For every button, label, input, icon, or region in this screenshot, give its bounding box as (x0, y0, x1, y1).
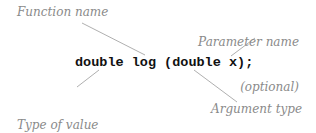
leader-function-name (82, 23, 145, 55)
return-type-label: Type of value returned by function (17, 88, 98, 133)
argument-type-label: Argument type (211, 102, 302, 117)
function-prototype-code: double log (double x); (75, 55, 253, 70)
return-type-line1: Type of value (17, 118, 98, 133)
parameter-name-line1: Parameter name (198, 35, 299, 50)
function-name-label: Function name (17, 5, 108, 20)
leader-return-type (77, 70, 99, 87)
parameter-name-line2: (optional) (198, 80, 299, 95)
function-prototype-diagram: Function name Parameter name (optional) … (0, 0, 316, 133)
